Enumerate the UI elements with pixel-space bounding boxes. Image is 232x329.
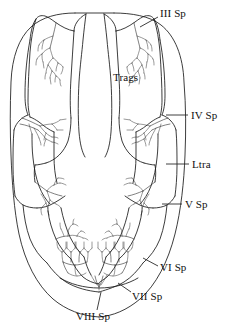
posterior-duct-right-outer — [143, 205, 167, 263]
leader-vi-sp — [143, 258, 158, 266]
spiracle-vi-left-tracheae — [56, 219, 88, 240]
posterior-duct-left-outer — [23, 205, 47, 263]
ltra-left-outer — [13, 130, 15, 196]
median-trunk-left-wall — [78, 14, 86, 157]
ltra-left-connector — [34, 165, 35, 182]
v-left-chamber — [37, 196, 65, 208]
posterior-duct-right-medial — [106, 208, 129, 257]
label-v-sp: V Sp — [185, 199, 208, 210]
ltra-right-outer — [175, 130, 177, 196]
iv-right-spiracle-opening — [162, 115, 176, 130]
label-ltra: Ltra — [192, 159, 211, 170]
tracheal-system-figure: III Sp Trags IV Sp Ltra V Sp VI Sp VII S… — [0, 0, 232, 329]
midbody-floor-left — [35, 163, 46, 165]
midbody-floor-right — [144, 163, 155, 165]
leader-viii-sp — [97, 292, 101, 310]
ltra-right-connector — [155, 165, 156, 182]
longitudinal-trachea-group — [13, 130, 177, 204]
posterior-duct-left-medial — [61, 208, 84, 257]
spiracle-iii-left-tracheae — [36, 23, 63, 86]
right-lobe-inner-wall — [160, 40, 165, 115]
left-midbody-chamber — [46, 118, 71, 163]
label-iii-sp: III Sp — [160, 8, 186, 19]
iv-left-spiracle-opening — [14, 115, 28, 130]
label-trags: Trags — [113, 72, 138, 83]
v-right-chamber — [125, 196, 153, 208]
iv-left-duct — [30, 117, 54, 132]
spiracle-vii-right-tracheae — [98, 242, 133, 276]
label-viii-sp: VIII Sp — [76, 311, 110, 322]
posterior-duct-left-inner — [48, 211, 71, 259]
label-iv-sp: IV Sp — [191, 110, 217, 121]
spiracle-v-left-group — [15, 178, 66, 215]
left-lobe-inner-wall — [25, 40, 30, 115]
median-trunk-right-wall — [104, 14, 112, 157]
right-lobe-outer-wall — [154, 19, 162, 117]
left-lobe-medial-wall — [70, 31, 74, 118]
iv-right-duct — [136, 117, 160, 132]
v-left-spiracle-opening — [15, 196, 37, 208]
left-lobe-outer-wall — [28, 19, 36, 117]
spiracle-vii-left-tracheae — [57, 242, 92, 276]
posterior-duct-group — [23, 205, 167, 263]
posterior-chamber-group — [47, 257, 143, 292]
posterior-duct-right-inner — [119, 211, 142, 259]
spiracle-vi-right-tracheae — [102, 219, 134, 240]
label-vii-sp: VII Sp — [132, 291, 162, 302]
spiracle-iv-left-group — [14, 115, 66, 146]
spiracle-iv-right-group — [124, 115, 176, 146]
spiracle-v-right-group — [124, 178, 175, 215]
label-vi-sp: VI Sp — [160, 262, 186, 273]
median-trunk-group — [74, 14, 116, 157]
right-midbody-chamber — [119, 118, 144, 163]
v-right-spiracle-opening — [153, 196, 175, 208]
